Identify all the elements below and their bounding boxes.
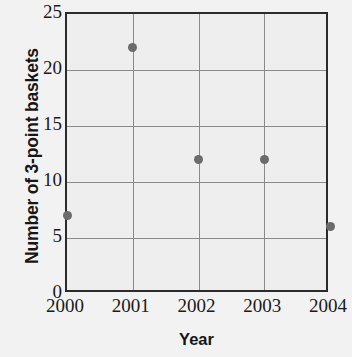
data-point: [63, 211, 72, 220]
x-axis-title: Year: [65, 330, 328, 349]
gridline-vertical: [133, 14, 134, 290]
data-point: [128, 43, 137, 52]
y-tick-label: 25: [4, 2, 62, 22]
gridline-horizontal: [67, 182, 326, 183]
y-tick-label: 10: [4, 170, 62, 190]
x-tick-label: 2002: [164, 294, 230, 318]
x-tick-label: 2004: [295, 294, 352, 318]
plot-area: [65, 12, 328, 292]
data-point: [194, 155, 203, 164]
x-axis-tick-labels: 20002001200220032004: [0, 294, 347, 320]
gridline-horizontal: [67, 70, 326, 71]
data-point: [260, 155, 269, 164]
gridline-horizontal: [67, 238, 326, 239]
y-tick-label: 20: [4, 58, 62, 78]
x-tick-label: 2003: [229, 294, 295, 318]
x-tick-label: 2000: [32, 294, 98, 318]
gridline-horizontal: [67, 126, 326, 127]
y-tick-label: 5: [4, 226, 62, 246]
gridline-vertical: [199, 14, 200, 290]
y-tick-label: 15: [4, 114, 62, 134]
x-tick-label: 2001: [98, 294, 164, 318]
y-axis-tick-labels: 0510152025: [0, 12, 62, 292]
data-point: [326, 222, 335, 231]
gridline-vertical: [264, 14, 265, 290]
